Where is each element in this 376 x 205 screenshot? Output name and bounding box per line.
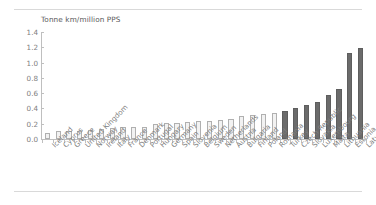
bar-slot bbox=[139, 32, 150, 139]
x-axis-label: United Kingdom bbox=[83, 143, 89, 149]
x-axis-label: Slovakia bbox=[310, 143, 316, 149]
x-axis-label: France bbox=[126, 143, 132, 149]
x-axis-label: Ireland bbox=[104, 143, 110, 149]
y-axis-tick-label: 1.4 bbox=[27, 28, 38, 37]
bar-slot bbox=[301, 32, 312, 139]
x-axis-label: Sweden bbox=[212, 143, 218, 149]
x-axis-label: Austria bbox=[234, 143, 240, 149]
x-axis-label: Cyprus bbox=[61, 143, 67, 149]
bar-slot bbox=[74, 32, 85, 139]
x-axis-label: Czech Republic bbox=[299, 143, 305, 149]
bar bbox=[45, 133, 50, 139]
y-axis-tick-label: 1.0 bbox=[27, 58, 38, 67]
x-axis-label: Hungary bbox=[158, 143, 164, 149]
top-divider-rule bbox=[14, 9, 362, 10]
x-axis-label: Finland bbox=[256, 143, 262, 149]
x-axis-label: Malta bbox=[331, 143, 337, 149]
x-axis-labels: IcelandCyprusGreeceUnited KingdomNorwayI… bbox=[42, 143, 366, 203]
chart-figure: Tonne km/million PPS 1.41.21.00.80.60.40… bbox=[0, 0, 376, 205]
y-axis-tick-label: 0.8 bbox=[27, 73, 38, 82]
x-axis-label: Latvia bbox=[364, 143, 370, 149]
bar-slot bbox=[53, 32, 64, 139]
bar-slot bbox=[85, 32, 96, 139]
x-axis-label: Romania bbox=[277, 143, 283, 149]
bar-slot bbox=[64, 32, 75, 139]
bar-slot bbox=[42, 32, 53, 139]
bar-slot bbox=[280, 32, 291, 139]
x-axis-label: Estonia bbox=[353, 143, 359, 149]
x-axis-label: Iceland bbox=[50, 143, 56, 149]
y-axis-tick-label: 0.6 bbox=[27, 89, 38, 98]
x-axis-label: Spain bbox=[180, 143, 186, 149]
x-axis-label: Lithuania bbox=[342, 143, 348, 149]
y-axis-tick-label: 1.2 bbox=[27, 43, 38, 52]
y-axis-tick-label: 0.4 bbox=[27, 104, 38, 113]
bar-slot bbox=[128, 32, 139, 139]
y-axis-tick-label: 0.0 bbox=[27, 135, 38, 144]
x-axis-label: Italy bbox=[115, 143, 121, 149]
x-axis-label: Turkey bbox=[288, 143, 294, 149]
x-axis-label: Norway bbox=[94, 143, 100, 149]
x-axis-label: Netherlands bbox=[223, 143, 229, 149]
y-axis-tick-label: 0.2 bbox=[27, 119, 38, 128]
x-axis-label: Germany bbox=[169, 143, 175, 149]
x-axis-label: Portugal bbox=[148, 143, 154, 149]
x-axis-label: Bulgaria bbox=[245, 143, 251, 149]
x-axis-label: Greece bbox=[72, 143, 78, 149]
chart-title: Tonne km/million PPS bbox=[41, 15, 121, 24]
x-axis-label: Luxembourg bbox=[320, 143, 326, 149]
bar-slot bbox=[269, 32, 280, 139]
x-axis-label: Slovenia bbox=[191, 143, 197, 149]
x-axis-label: Poland bbox=[266, 143, 272, 149]
x-axis-label: Denmark bbox=[137, 143, 143, 149]
x-axis-label: Belgium bbox=[202, 143, 208, 149]
bar-slot bbox=[118, 32, 129, 139]
